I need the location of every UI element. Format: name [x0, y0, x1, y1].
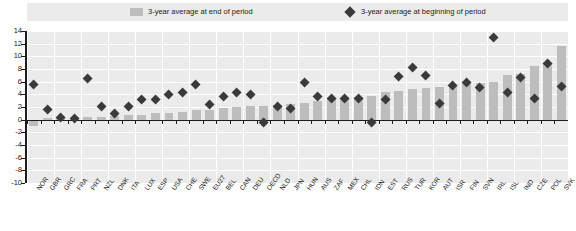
x-axis-tick: [419, 121, 420, 124]
plot-area: [27, 31, 568, 183]
y-axis-tick-label: -6: [2, 154, 22, 162]
x-axis-tick: [270, 121, 271, 124]
x-axis-tick: [176, 121, 177, 124]
x-axis-tick: [216, 121, 217, 124]
data-point-marker: [204, 99, 214, 109]
gridline-vertical: [541, 31, 542, 183]
bar: [246, 106, 255, 119]
x-axis-tick: [162, 121, 163, 124]
y-axis-tick: [21, 69, 25, 70]
bar: [489, 82, 498, 120]
gridline-vertical: [352, 31, 353, 183]
data-point-marker: [69, 113, 79, 123]
data-point-marker: [123, 102, 133, 112]
bar: [367, 96, 376, 120]
x-axis-tick: [284, 121, 285, 124]
data-point-marker: [218, 92, 228, 102]
y-axis-tick-label: 8: [2, 65, 22, 73]
data-point-marker: [96, 102, 106, 112]
x-axis-category-label: ISL: [509, 180, 520, 192]
gridline-vertical: [298, 31, 299, 183]
y-axis-tick-label: 14: [2, 27, 22, 35]
data-point-marker: [164, 89, 174, 99]
data-point-marker: [489, 32, 499, 42]
x-axis-tick: [108, 121, 109, 124]
x-axis-tick: [243, 121, 244, 124]
data-point-marker: [137, 95, 147, 105]
y-axis-tick: [21, 120, 25, 121]
legend-item-end-of-period: 3-year average at end of period: [130, 3, 253, 21]
chart-legend: 3-year average at end of period 3-year a…: [27, 3, 568, 21]
gridline-vertical: [487, 31, 488, 183]
x-axis-tick: [460, 121, 461, 124]
data-point-marker: [394, 72, 404, 82]
y-axis-tick: [21, 82, 25, 83]
data-point-marker: [421, 70, 431, 80]
bar: [165, 113, 174, 120]
gridline-vertical: [433, 31, 434, 183]
bar: [408, 89, 417, 119]
x-axis-tick: [554, 121, 555, 124]
data-point-marker: [150, 94, 160, 104]
x-axis-tick: [514, 121, 515, 124]
y-axis-tick: [21, 94, 25, 95]
x-axis-tick: [189, 121, 190, 124]
data-point-marker: [42, 104, 52, 114]
y-axis-tick-label: 12: [2, 40, 22, 48]
y-axis-tick: [21, 107, 25, 108]
x-axis-tick: [81, 121, 82, 124]
x-axis-tick: [433, 121, 434, 124]
y-axis-tick-label: -10: [2, 179, 22, 187]
gridline-vertical: [325, 31, 326, 183]
x-axis-tick: [68, 121, 69, 124]
y-axis-tick-label: -8: [2, 166, 22, 174]
bar: [394, 91, 403, 120]
data-point-marker: [245, 89, 255, 99]
x-axis-tick: [27, 121, 28, 124]
y-axis-tick-label: -2: [2, 128, 22, 136]
bar-swatch-icon: [130, 8, 143, 16]
x-axis-tick: [500, 121, 501, 124]
x-axis-category-label: ITA: [130, 180, 141, 192]
data-point-marker: [299, 78, 309, 88]
legend-label-end-of-period: 3-year average at end of period: [148, 8, 253, 16]
y-axis-tick-label: 2: [2, 103, 22, 111]
x-axis-tick: [95, 121, 96, 124]
y-axis-tick: [21, 145, 25, 146]
gridline-vertical: [54, 31, 55, 183]
x-axis-tick: [325, 121, 326, 124]
y-axis-tick-label: 10: [2, 52, 22, 60]
gridline-vertical: [243, 31, 244, 183]
gridline-vertical: [135, 31, 136, 183]
diamond-marker-icon: [344, 6, 355, 17]
x-axis-tick: [446, 121, 447, 124]
legend-item-beginning-of-period: 3-year average at beginning of period: [344, 3, 486, 21]
data-point-marker: [177, 88, 187, 98]
gridline-vertical: [216, 31, 217, 183]
bar: [449, 85, 458, 119]
bar: [192, 110, 201, 120]
x-axis-tick: [352, 121, 353, 124]
x-axis-tick: [54, 121, 55, 124]
x-axis-tick: [406, 121, 407, 124]
bar: [543, 63, 552, 120]
x-axis-tick: [257, 121, 258, 124]
x-axis-tick: [379, 121, 380, 124]
y-axis-tick: [21, 44, 25, 45]
gridline-vertical: [108, 31, 109, 183]
bar: [205, 110, 214, 120]
gridline-vertical: [406, 31, 407, 183]
gridline-vertical: [81, 31, 82, 183]
gridline-vertical: [27, 31, 28, 183]
y-axis-tick: [21, 170, 25, 171]
data-point-marker: [191, 79, 201, 89]
y-axis-tick: [21, 56, 25, 57]
chart-root: 3-year average at end of period 3-year a…: [0, 0, 576, 231]
x-axis-tick: [487, 121, 488, 124]
x-axis-tick: [41, 121, 42, 124]
bar: [219, 108, 228, 120]
y-axis-tick-label: 4: [2, 90, 22, 98]
bar: [232, 107, 241, 120]
y-axis-tick: [21, 132, 25, 133]
bar: [313, 101, 322, 120]
